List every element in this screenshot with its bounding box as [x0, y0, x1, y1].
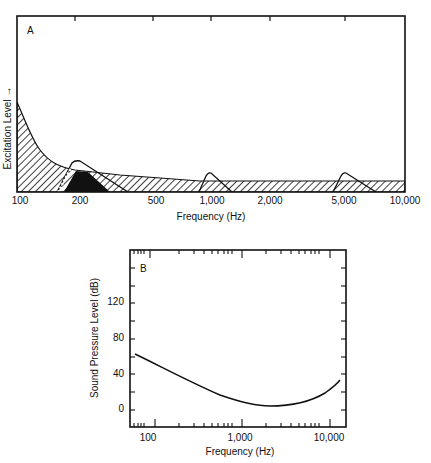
panel-b-y-ticks	[130, 268, 346, 410]
x-tick-500: 500	[148, 195, 165, 206]
x-tick-2000: 2,000	[257, 195, 282, 206]
panel-b-x-axis-title: Frequency (Hz)	[206, 446, 275, 457]
panel-b-label: B	[140, 263, 147, 274]
panel-b-y-tick-labels: 0 40 80 120	[107, 296, 124, 414]
panel-b-x-tick-labels: 100 1,000 10,000	[140, 432, 345, 443]
y-tick-80: 80	[113, 332, 125, 343]
panel-b-x-ticks	[134, 250, 330, 427]
panel-b-y-axis-title: Sound Pressure Level (dB)	[89, 278, 100, 398]
x-tick-100: 100	[140, 432, 157, 443]
panel-a-y-axis-title: Excitation Level →	[2, 87, 13, 170]
x-tick-1000: 1,000	[227, 432, 252, 443]
x-tick-5000: 5,000	[331, 195, 356, 206]
y-tick-0: 0	[118, 403, 124, 414]
x-tick-10000: 10,000	[314, 432, 345, 443]
threshold-curve	[135, 354, 340, 406]
panel-a-plot-area	[17, 102, 405, 192]
x-tick-200: 200	[72, 195, 89, 206]
figure: A 100 200 500 1,000 2,000 5,000 10,000 F…	[0, 0, 431, 463]
y-tick-120: 120	[107, 296, 124, 307]
panel-a-label: A	[27, 25, 34, 36]
panel-a: A 100 200 500 1,000 2,000 5,000 10,000 F…	[2, 16, 421, 222]
panel-b: B 0 40 80 120 100 1,000 10,000 Frequency…	[89, 250, 346, 457]
panel-a-x-tick-labels: 100 200 500 1,000 2,000 5,000 10,000	[12, 195, 421, 206]
x-tick-1000: 1,000	[199, 195, 224, 206]
x-tick-100: 100	[12, 195, 29, 206]
panel-a-frame	[17, 16, 405, 192]
y-tick-40: 40	[113, 368, 125, 379]
x-tick-10000: 10,000	[390, 195, 421, 206]
panel-a-x-axis-title: Frequency (Hz)	[177, 211, 246, 222]
